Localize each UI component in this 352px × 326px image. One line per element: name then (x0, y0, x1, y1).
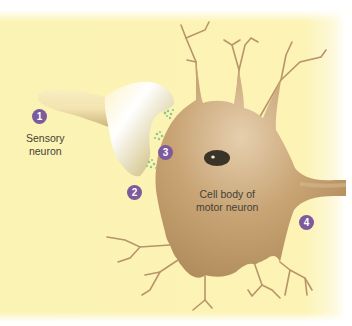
cell-body-label-line1: Cell body of (196, 188, 258, 201)
sensory-neuron-label-line2: neuron (26, 145, 65, 158)
sensory-neuron-label: Sensory neuron (26, 132, 65, 157)
sensory-axon (38, 89, 112, 128)
callout-badge-3: 3 (158, 145, 173, 160)
neuron-illustration (0, 0, 352, 326)
neuron-diagram: 1 2 3 4 Sensory neuron Cell body of moto… (0, 0, 352, 326)
callout-badge-4: 4 (299, 215, 314, 230)
motor-neuron-body (156, 62, 346, 278)
cell-body-label-line2: motor neuron (196, 201, 258, 214)
sensory-neuron-label-line1: Sensory (26, 132, 65, 145)
nucleus (204, 150, 230, 166)
nucleolus (211, 156, 215, 159)
callout-badge-1: 1 (32, 109, 47, 124)
cell-body-label: Cell body of motor neuron (196, 188, 258, 213)
callout-badge-2: 2 (127, 185, 142, 200)
